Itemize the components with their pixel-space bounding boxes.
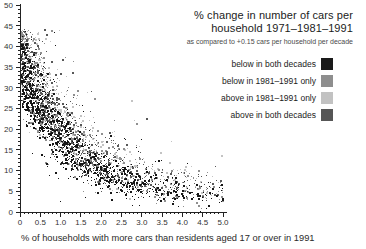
x-tick-label: 3.0 — [136, 218, 148, 227]
x-axis: 00.51.01.52.02.53.03.54.04.55.0 — [18, 212, 229, 227]
x-tick-label: 1.0 — [55, 218, 67, 227]
legend-item-label: above in 1981–1991 only — [221, 93, 316, 103]
legend-item-label: below in both decades — [231, 59, 316, 69]
y-tick-label: 50 — [4, 1, 13, 10]
y-axis: 05101520253035404550 — [4, 1, 20, 217]
y-tick-label: 25 — [4, 104, 13, 113]
x-tick-label: 2.5 — [116, 218, 128, 227]
x-tick-label: 0.5 — [35, 218, 47, 227]
y-tick-label: 15 — [4, 146, 13, 155]
x-tick-label: 3.5 — [157, 218, 169, 227]
x-tick-label: 1.5 — [75, 218, 87, 227]
y-tick-label: 10 — [4, 166, 13, 175]
points-layer — [21, 29, 224, 212]
legend-item-label: below in 1981–1991 only — [222, 76, 316, 86]
points-black — [21, 31, 224, 212]
x-tick-label: 5.0 — [217, 218, 229, 227]
legend-swatch — [321, 109, 333, 121]
y-tick-label: 30 — [4, 84, 13, 93]
points-mid — [21, 30, 224, 209]
title-block: % change in number of cars per household… — [187, 9, 353, 45]
legend-swatch — [321, 75, 333, 87]
y-tick-label: 20 — [4, 125, 13, 134]
x-tick-label: 0 — [18, 218, 23, 227]
legend: below in both decadesbelow in 1981–1991 … — [221, 55, 333, 123]
y-tick-label: 5 — [9, 187, 14, 196]
legend-item: above in 1981–1991 only — [221, 89, 333, 106]
y-tick-label: 45 — [4, 22, 13, 31]
legend-swatch — [321, 92, 333, 104]
chart-title-line1: % change in number of cars per — [194, 9, 353, 21]
x-tick-label: 2.0 — [96, 218, 108, 227]
x-axis-caption: % of households with more cars than resi… — [21, 233, 315, 243]
chart-title-line2: household 1971–1981–1991 — [211, 22, 353, 34]
x-tick-label: 4.0 — [177, 218, 189, 227]
legend-item: above in both decades — [221, 106, 333, 123]
chart-title: % change in number of cars per household… — [187, 9, 353, 35]
x-tick-label: 4.5 — [197, 218, 209, 227]
legend-item: below in 1981–1991 only — [221, 72, 333, 89]
y-tick-label: 35 — [4, 63, 13, 72]
legend-item-label: above in both decades — [230, 110, 316, 120]
y-tick-label: 0 — [9, 208, 14, 217]
y-tick-label: 40 — [4, 42, 13, 51]
legend-item: below in both decades — [221, 55, 333, 72]
chart-figure: 0510152025303540455000.51.01.52.02.53.03… — [0, 0, 366, 249]
chart-subtitle: as compared to +0.15 cars per household … — [187, 38, 353, 45]
legend-swatch — [321, 58, 333, 70]
